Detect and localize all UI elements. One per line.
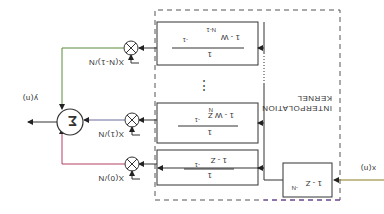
delay-numerator: 1 - Z bbox=[305, 179, 322, 188]
multiplier-1 bbox=[125, 113, 139, 127]
filter-2-numerator: 1 bbox=[207, 50, 212, 59]
coef-2: X(N-1)/N bbox=[88, 58, 124, 67]
filter-1-w-exp: N bbox=[209, 107, 213, 113]
delay-exponent: -N bbox=[292, 185, 298, 191]
filter-box-1 bbox=[157, 103, 258, 143]
filter-2-w-exp: N-1 bbox=[206, 27, 216, 33]
sigma-icon: Σ bbox=[68, 113, 77, 130]
filter-1-numerator: 1 bbox=[207, 128, 212, 137]
filter-1-z-exp: -1 bbox=[194, 117, 200, 123]
block-diagram: INTERPOLATION KERNEL x(n) 1 - Z -N 1 1 -… bbox=[0, 0, 384, 214]
diagram-rotated: INTERPOLATION KERNEL x(n) 1 - Z -N 1 1 -… bbox=[0, 0, 384, 214]
kernel-label-line2: KERNEL bbox=[297, 94, 332, 103]
filter-0-numerator: 1 bbox=[207, 171, 212, 180]
filter-2-denominator: 1 - W bbox=[220, 33, 240, 42]
coef-1: X(1)/N bbox=[98, 130, 124, 139]
kernel-label-line1: INTERPOLATION bbox=[262, 104, 332, 113]
input-label: x(n) bbox=[360, 164, 376, 173]
ellipsis: ⋮ bbox=[198, 79, 210, 93]
multiplier-0 bbox=[125, 157, 139, 171]
summer: Σ bbox=[57, 109, 83, 135]
filter-2-z-exp: -1 bbox=[182, 37, 188, 43]
output-label: y(n) bbox=[22, 94, 38, 103]
filter-0-denominator: 1 - Z bbox=[210, 156, 227, 165]
multiplier-2 bbox=[124, 41, 138, 55]
filter-0-exp: -1 bbox=[194, 162, 200, 168]
coef-0: X(0)/N bbox=[98, 174, 124, 183]
